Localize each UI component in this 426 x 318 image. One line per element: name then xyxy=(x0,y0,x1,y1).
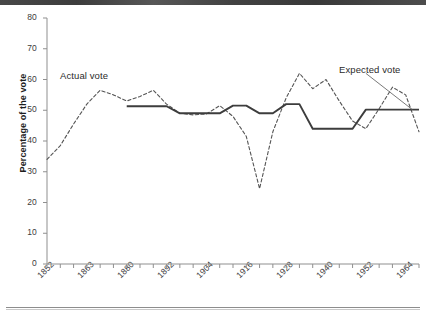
series-line-actual-vote xyxy=(47,73,419,188)
expected-vote-leader-line xyxy=(366,73,413,109)
scan-artifact-bottom-rule xyxy=(6,307,420,308)
axes-group xyxy=(43,18,419,268)
vote-percentage-line-chart: Percentage of the vote 01020304050607080… xyxy=(0,0,426,318)
data-series-group xyxy=(47,73,419,188)
x-axis-ticks xyxy=(47,264,419,268)
scan-artifact-bottom-rule-shadow xyxy=(6,309,420,310)
plot-area xyxy=(0,0,426,318)
expected-vote-label: Expected vote xyxy=(339,64,401,75)
series-line-expected-vote xyxy=(127,104,419,129)
annotation-leader-group xyxy=(366,73,413,109)
y-axis-ticks xyxy=(43,18,47,264)
actual-vote-label: Actual vote xyxy=(60,70,108,81)
